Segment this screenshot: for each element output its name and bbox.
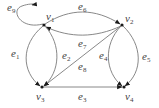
vertex-v4 [122,85,125,88]
vertex-v2 [120,23,123,26]
edge-index: 2 [67,55,71,63]
edge-label-e9: e9 [7,2,15,15]
vertex-label-v3: v3 [36,91,44,104]
edge-index: 8 [83,66,87,74]
vertex-label-v2: v2 [125,13,133,26]
vertex-v3 [40,85,43,88]
edge-label-e1: e1 [11,48,19,61]
edge-index: 7 [83,43,87,51]
edge-label-e6: e6 [78,1,86,14]
edge-label-e4: e4 [99,50,107,63]
edge-index: 9 [12,7,16,15]
edge-e9 [17,4,43,25]
edge-label-e8: e8 [78,61,86,74]
edge-index: 5 [147,56,151,64]
edge-e5 [123,26,138,86]
edge-label-e2: e2 [62,50,70,63]
edge-label-e3: e3 [78,91,86,104]
vertex-index: 4 [130,96,134,104]
vertex-label-v4: v4 [125,91,133,104]
vertex-index: 3 [41,96,45,104]
edge-index: 1 [16,53,20,61]
edge-label-e5: e5 [142,51,150,64]
edge-index: 4 [104,55,108,63]
edge-index: 3 [83,96,87,104]
edge-e7 [46,26,121,35]
vertex-label-v1: v1 [46,11,54,24]
vertex-index: 1 [51,16,55,24]
edge-label-e7: e7 [78,38,86,51]
edge-index: 6 [83,6,87,14]
edge-e4 [108,26,122,86]
vertex-index: 2 [130,18,134,26]
edge-e1 [26,26,43,86]
